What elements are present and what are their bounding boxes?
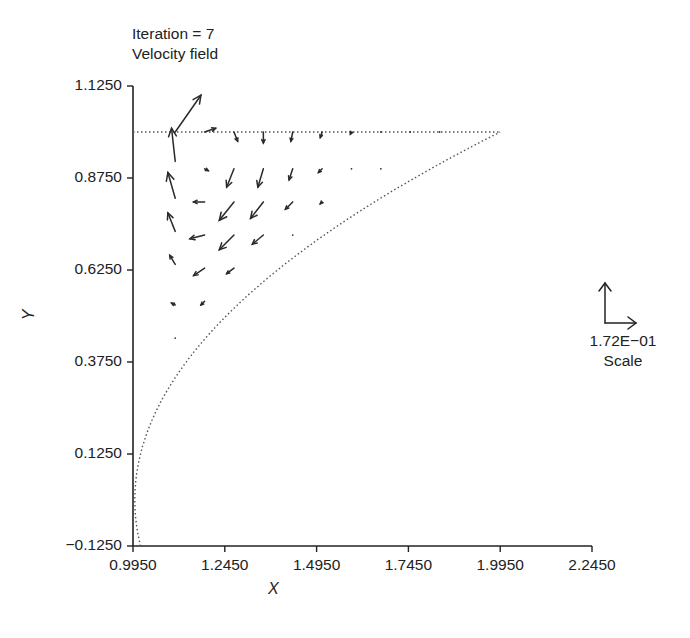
velocity-arrow: [262, 132, 265, 143]
velocity-arrow: [167, 213, 175, 231]
velocity-arrow: [172, 303, 176, 305]
velocity-arrow: [257, 169, 264, 187]
velocity-arrow: [251, 202, 264, 219]
velocity-arrow: [289, 169, 293, 180]
axes: [133, 86, 592, 546]
x-tick-label: 1.2450: [185, 556, 265, 574]
y-tick-label: 0.8750: [12, 168, 122, 186]
x-axis-label: X: [268, 580, 279, 598]
velocity-arrow: [234, 132, 238, 141]
x-tick-label: 0.9950: [93, 556, 173, 574]
velocity-arrow: [350, 131, 352, 134]
x-tick-label: 1.9950: [460, 556, 540, 574]
velocity-arrow: [226, 169, 234, 187]
y-axis-label: Y: [20, 310, 38, 321]
y-tick-label: 0.6250: [12, 260, 122, 278]
velocity-arrow: [409, 131, 411, 133]
velocity-arrow: [380, 168, 382, 170]
velocity-arrow: [380, 131, 382, 133]
y-tick-label: 1.1250: [12, 76, 122, 94]
velocity-arrow: [320, 132, 322, 138]
velocity-arrow: [219, 235, 234, 250]
velocity-arrow: [194, 200, 205, 203]
scale-label: Scale: [578, 351, 668, 371]
velocity-vectors: [166, 95, 440, 339]
velocity-arrow: [252, 235, 263, 244]
scale-legend: 1.72E−01 Scale: [578, 331, 668, 371]
y-tick-label: 0.1250: [12, 444, 122, 462]
velocity-arrow: [351, 168, 353, 170]
velocity-arrow: [439, 131, 441, 133]
x-tick-label: 1.4950: [277, 556, 357, 574]
domain-boundaries: [133, 132, 500, 546]
curved-boundary: [135, 132, 500, 546]
velocity-arrow: [318, 169, 322, 173]
velocity-arrow: [175, 95, 201, 132]
scale-reference-arrows: [599, 283, 636, 329]
y-tick-label: 0.3750: [12, 352, 122, 370]
velocity-arrow: [166, 172, 175, 198]
velocity-arrow: [201, 301, 205, 305]
velocity-arrow: [292, 234, 294, 236]
velocity-arrow: [170, 255, 176, 264]
velocity-arrow: [205, 168, 209, 170]
x-tick-label: 2.2450: [552, 556, 632, 574]
velocity-arrow: [285, 202, 292, 209]
x-tick-label: 1.7450: [368, 556, 448, 574]
velocity-arrow: [320, 201, 323, 204]
velocity-arrow: [169, 128, 177, 161]
velocity-arrow: [194, 268, 205, 275]
velocity-arrow: [219, 202, 234, 220]
velocity-arrow: [290, 132, 293, 141]
velocity-arrow: [174, 337, 176, 339]
y-tick-label: −0.1250: [12, 536, 122, 554]
scale-value: 1.72E−01: [578, 331, 668, 351]
velocity-arrow: [227, 268, 234, 274]
velocity-arrow: [190, 235, 205, 240]
ticks: [127, 86, 592, 552]
